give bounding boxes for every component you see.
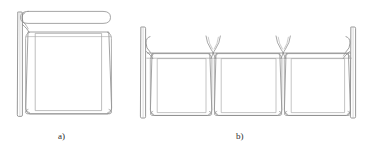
figure-caption-b: b) — [236, 131, 244, 141]
technical-drawing-canvas — [0, 0, 371, 156]
figure-caption-a: a) — [58, 131, 65, 141]
